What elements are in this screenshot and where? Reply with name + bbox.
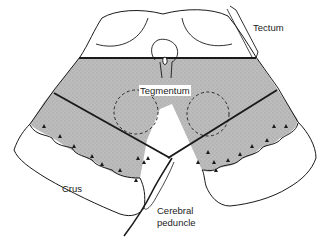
colliculus-right xyxy=(182,18,232,46)
label-tegmentum: Tegmentum xyxy=(139,85,191,96)
aqueduct-lumen xyxy=(163,57,167,65)
label-cerebral-peduncle-line1: Cerebral xyxy=(157,205,193,216)
label-crus: Crus xyxy=(62,183,82,194)
label-cerebral-peduncle-line2: peduncle xyxy=(157,217,196,228)
shaded-region xyxy=(30,57,298,178)
label-tectum: Tectum xyxy=(253,22,284,33)
peduncle-pointer-inner xyxy=(144,162,174,209)
colliculus-left xyxy=(96,18,148,46)
tectum-outline xyxy=(80,10,256,57)
